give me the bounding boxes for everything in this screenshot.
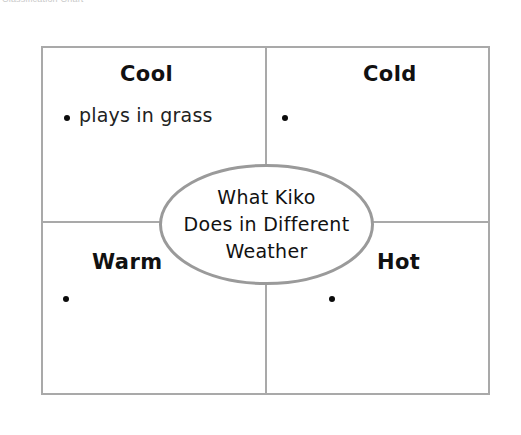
worksheet-canvas: Classification Chart Cool Cold Warm Hot … [0,0,521,435]
quadrant-title-cool: Cool [120,62,173,86]
center-line-2: Does in Different [184,211,350,238]
quadrant-title-hot: Hot [377,250,420,274]
center-topic-text: What Kiko Does in Different Weather [158,163,375,286]
quadrant-title-warm: Warm [92,250,162,274]
bullet-dot-icon [63,296,69,302]
bullet-row-hot [329,287,344,302]
bullet-row-cold [282,106,297,121]
center-topic-oval: What Kiko Does in Different Weather [158,163,375,286]
bullet-text-cool[interactable]: plays in grass [79,106,213,126]
sheet-caption: Classification Chart [2,0,202,6]
bullet-dot-icon [282,115,288,121]
bullet-row-warm [63,287,78,302]
center-line-1: What Kiko [217,184,315,211]
bullet-row-cool: plays in grass [64,106,213,126]
quadrant-title-cold: Cold [363,62,417,86]
bullet-dot-icon [329,296,335,302]
center-line-3: Weather [225,238,307,265]
bullet-dot-icon [64,115,70,121]
